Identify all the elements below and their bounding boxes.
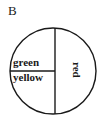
slice-label-yellow: yellow <box>13 71 43 83</box>
pie-diagram: green yellow red <box>0 0 98 121</box>
slice-label-red: red <box>71 62 83 78</box>
slice-label-green: green <box>13 56 39 68</box>
